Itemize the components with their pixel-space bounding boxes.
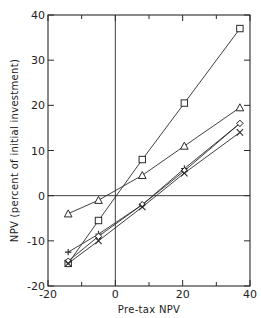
series-plus	[65, 120, 243, 255]
square-marker	[139, 156, 145, 162]
y-tick-label: 40	[31, 9, 45, 22]
square-marker	[95, 217, 101, 223]
y-tick-label: 20	[31, 99, 45, 112]
triangle-marker	[138, 172, 146, 179]
plus-marker	[65, 249, 71, 255]
y-tick-label: 0	[38, 190, 45, 203]
x-axis-title: Pre-tax NPV	[118, 304, 180, 315]
axis-tick-labels: -2002040-20-10010203040	[27, 9, 257, 301]
npv-chart: -2002040-20-10010203040 Pre-tax NPV NPV …	[0, 0, 261, 318]
series-line	[68, 123, 240, 252]
x-marker	[237, 129, 243, 135]
square-marker	[181, 100, 187, 106]
series-square	[65, 25, 243, 266]
triangle-marker	[236, 104, 244, 111]
x-tick-label: 40	[243, 288, 257, 301]
series-line	[68, 132, 240, 263]
series-cross	[65, 129, 243, 266]
square-marker	[237, 25, 243, 31]
series-diamond	[65, 120, 243, 264]
data-series	[64, 25, 243, 266]
triangle-marker	[95, 196, 103, 203]
triangle-marker	[181, 142, 189, 149]
y-tick-label: 10	[31, 145, 45, 158]
y-axis-title: NPV (percent of initial investment)	[9, 59, 20, 242]
y-tick-label: -10	[27, 235, 45, 248]
y-tick-label: 30	[31, 54, 45, 67]
series-triangle	[64, 104, 243, 217]
series-line	[68, 29, 240, 264]
x-tick-label: 20	[176, 288, 190, 301]
x-tick-label: 0	[112, 288, 119, 301]
y-tick-label: -20	[27, 280, 45, 293]
triangle-marker	[64, 210, 72, 217]
